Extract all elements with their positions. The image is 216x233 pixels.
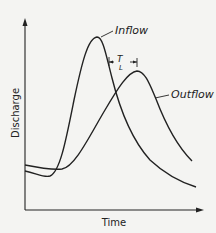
y-axis-label: Discharge <box>10 88 21 138</box>
y-axis-arrow-icon <box>23 18 28 26</box>
lag-arrowhead-left-icon <box>109 61 113 64</box>
outflow-leader-line <box>155 95 169 98</box>
inflow-leader-line <box>101 31 113 37</box>
lag-label-sub: L <box>119 64 123 72</box>
inflow-label: Inflow <box>115 24 148 37</box>
inflow-curve <box>25 37 196 187</box>
inflow-label-group: Inflow <box>101 24 148 37</box>
outflow-label-group: Outflow <box>155 88 214 101</box>
axes <box>25 22 200 210</box>
hydrograph-diagram: Inflow Outflow T L Time Discharge <box>0 0 216 233</box>
lag-time-annotation <box>109 57 137 67</box>
x-axis-label: Time <box>101 217 126 228</box>
outflow-label: Outflow <box>171 88 214 101</box>
lag-arrowhead-right-icon <box>133 61 137 64</box>
outflow-curve <box>25 71 192 169</box>
lag-label-main: T <box>117 54 124 64</box>
x-axis-arrow-icon <box>196 208 204 213</box>
